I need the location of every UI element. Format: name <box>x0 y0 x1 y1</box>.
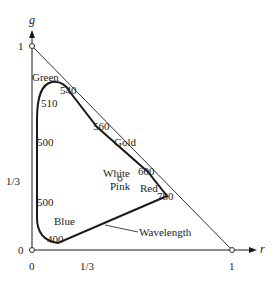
label-white: White <box>103 167 130 179</box>
label-green: Green <box>32 71 59 83</box>
wl-510: 510 <box>41 97 58 109</box>
label-red: Red <box>140 182 158 194</box>
y-tick-0: 0 <box>18 244 24 256</box>
g-axis-arrow-icon <box>29 30 35 38</box>
wl-500-lower: 500 <box>37 196 54 208</box>
r-axis-label: r <box>260 242 265 256</box>
wavelength-annotation: Wavelength <box>139 226 192 238</box>
y-tick-third: 1/3 <box>6 175 21 187</box>
wl-780: 780 <box>157 190 174 202</box>
wavelength-pointer <box>105 225 138 232</box>
wl-400: 400 <box>47 233 64 245</box>
r-axis-arrow-icon <box>249 247 257 253</box>
origin-marker <box>30 248 35 253</box>
x-tick-1: 1 <box>229 260 235 272</box>
wl-540: 540 <box>60 84 77 96</box>
y-tick-1: 1 <box>18 40 24 52</box>
g1-marker <box>30 44 35 49</box>
label-pink: Pink <box>110 180 131 192</box>
r1-marker <box>230 248 235 253</box>
x-tick-third: 1/3 <box>80 260 95 272</box>
x-tick-0: 0 <box>29 260 35 272</box>
wl-500-upper: 500 <box>37 136 54 148</box>
wl-560: 560 <box>93 120 110 132</box>
label-gold: Gold <box>114 136 137 148</box>
wl-600: 600 <box>138 165 155 177</box>
chromaticity-diagram: g r 0 1/3 1 0 1/3 1 Green Gold White Pin… <box>0 0 275 281</box>
diagram-svg: g r 0 1/3 1 0 1/3 1 Green Gold White Pin… <box>0 0 275 281</box>
label-blue: Blue <box>54 215 75 227</box>
g-axis-label: g <box>29 13 35 27</box>
